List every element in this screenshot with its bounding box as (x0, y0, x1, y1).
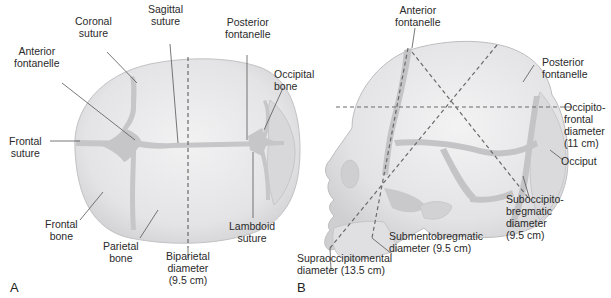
label-parietal-bone: Parietalbone (103, 240, 139, 264)
label-submentobregmatic-diameter: Submentobregmaticdiameter (9.5 cm) (389, 230, 483, 254)
label-frontal-bone: Frontalbone (45, 218, 78, 242)
label-occipital-bone: Occipitalbone (274, 68, 314, 92)
label-posterior-fontanelle-b: Posteriorfontanelle (542, 56, 588, 80)
label-occiput: Occiput (561, 155, 597, 167)
panel-letter-a: A (10, 280, 19, 295)
label-occipitofrontal-diameter: Occipito-frontaldiameter(11 cm) (564, 101, 605, 149)
fetal-skull-figure: Sagittalsuture Coronalsuture Posteriorfo… (0, 0, 611, 298)
label-anterior-fontanelle-a: Anteriorfontanelle (14, 45, 60, 69)
label-frontal-suture: Frontalsuture (9, 135, 42, 159)
label-coronal-suture: Coronalsuture (75, 15, 112, 39)
label-anterior-fontanelle-b: Anteriorfontanelle (395, 4, 441, 28)
label-posterior-fontanelle-a: Posteriorfontanelle (225, 16, 271, 40)
label-sagittal-suture: Sagittalsuture (148, 3, 183, 27)
panel-letter-b: B (297, 280, 306, 295)
label-supraoccipitomental-diameter: Supraoccipitomentaldiameter (13.5 cm) (297, 252, 392, 276)
label-biparietal-diameter: Biparietaldiameter(9.5 cm) (166, 250, 210, 286)
label-lambdoid-suture: Lambdoidsuture (229, 220, 275, 244)
label-suboccipitobregmatic-diameter: Suboccipito-bregmaticdiameter(9.5 cm) (506, 193, 564, 241)
